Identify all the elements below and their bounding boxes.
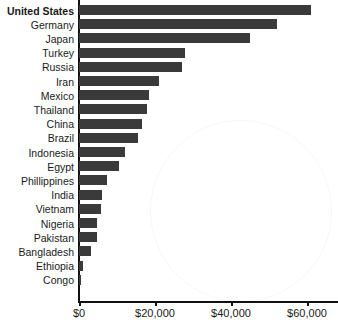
bar-row <box>79 161 119 171</box>
bar <box>79 190 102 200</box>
bar-row <box>79 232 97 242</box>
category-label: Indonesia <box>28 148 74 159</box>
category-label: Turkey <box>42 48 74 59</box>
bar-row <box>79 5 311 15</box>
bar <box>79 76 159 86</box>
category-label: Japan <box>45 34 74 45</box>
category-label: India <box>51 190 74 201</box>
category-label: China <box>47 119 74 130</box>
x-axis-tick-label: $0 <box>73 307 85 319</box>
x-axis-tick-label: $20,000 <box>135 307 175 319</box>
category-label: Nigeria <box>41 219 74 230</box>
bar <box>79 133 138 143</box>
bar <box>79 275 81 285</box>
category-label: Vietnam <box>36 204 74 215</box>
bar-row <box>79 175 107 185</box>
bar-row <box>79 119 142 129</box>
bar <box>79 204 101 214</box>
bar-row <box>79 33 250 43</box>
category-label: Germany <box>31 20 74 31</box>
category-label: Phillippines <box>21 176 74 187</box>
bar-row <box>79 204 101 214</box>
plot-area <box>79 0 338 302</box>
bar <box>79 62 182 72</box>
bar-row <box>79 76 159 86</box>
category-label: Congo <box>43 275 74 286</box>
category-label: Pakistan <box>34 233 74 244</box>
category-axis-labels: United StatesGermanyJapanTurkeyRussiaIra… <box>0 0 74 302</box>
category-label: Brazil <box>48 133 74 144</box>
bar <box>79 161 119 171</box>
x-axis-tick <box>79 302 81 306</box>
category-label: United States <box>7 6 74 17</box>
x-axis-tick <box>155 302 157 306</box>
category-label: Iran <box>56 77 74 88</box>
bar-row <box>79 261 83 271</box>
bar-row <box>79 275 81 285</box>
bar <box>79 246 91 256</box>
bar <box>79 119 142 129</box>
x-axis-tick <box>307 302 309 306</box>
category-label: Ethiopia <box>36 261 74 272</box>
x-axis-tick <box>231 302 233 306</box>
bar <box>79 175 107 185</box>
bar <box>79 147 125 157</box>
bar <box>79 19 277 29</box>
category-label: Egypt <box>47 162 74 173</box>
bar-row <box>79 246 91 256</box>
bar-row <box>79 190 102 200</box>
bar <box>79 104 147 114</box>
bar-row <box>79 19 277 29</box>
bar <box>79 48 185 58</box>
bar-row <box>79 104 147 114</box>
bar-row <box>79 48 185 58</box>
bar <box>79 90 149 100</box>
category-label: Russia <box>42 62 74 73</box>
bar <box>79 261 83 271</box>
x-axis-tick-label: $40,000 <box>211 307 251 319</box>
bar <box>79 5 311 15</box>
bar-row <box>79 62 182 72</box>
bar-chart: United StatesGermanyJapanTurkeyRussiaIra… <box>0 0 338 324</box>
bar-row <box>79 133 138 143</box>
bar-row <box>79 90 149 100</box>
category-label: Thailand <box>34 105 74 116</box>
bar <box>79 33 250 43</box>
x-axis-tick-label: $60,000 <box>287 307 327 319</box>
bar-row <box>79 218 97 228</box>
bar-row <box>79 147 125 157</box>
bar <box>79 218 97 228</box>
category-label: Mexico <box>41 91 74 102</box>
category-label: Bangladesh <box>19 247 74 258</box>
bar <box>79 232 97 242</box>
